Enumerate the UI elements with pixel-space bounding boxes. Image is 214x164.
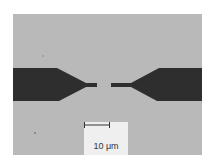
scale-bar-icon [84,122,110,128]
left-electrode [13,68,97,101]
scale-bar-label: 10 μm [84,141,128,151]
right-electrode [111,68,202,101]
micrograph: 10 μm [13,14,202,155]
scale-bar-box: 10 μm [84,122,128,155]
